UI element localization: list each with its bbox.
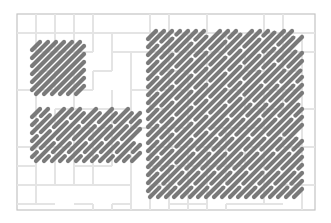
hatch-stroke xyxy=(176,31,180,35)
hatch-stroke xyxy=(298,165,302,169)
hatch-pattern-diagram xyxy=(0,0,331,223)
